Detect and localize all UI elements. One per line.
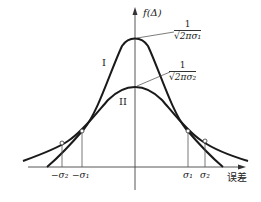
peak-i-label: 1 √2πσ₁ — [174, 20, 201, 41]
tick-sigma2: σ₂ — [200, 171, 210, 180]
inflection-marker — [203, 139, 207, 143]
curve-ii-label: II — [119, 96, 127, 107]
tick-neg-sigma1: −σ₁ — [72, 171, 89, 180]
inflection-marker — [60, 141, 64, 145]
error-distribution-diagram — [0, 0, 261, 202]
inflection-marker — [186, 129, 190, 133]
curve-i-label: I — [102, 57, 106, 68]
tick-neg-sigma2: −σ₂ — [51, 171, 68, 180]
curve-ii — [23, 87, 248, 161]
peak-i-leader — [137, 32, 174, 38]
y-axis-arrow-icon — [133, 7, 138, 15]
x-axis-arrow-icon — [238, 165, 246, 170]
tick-sigma1: σ₁ — [183, 171, 193, 180]
peak-ii-label: 1 √2πσ₂ — [169, 61, 196, 82]
peak-i-numerator: 1 — [185, 20, 191, 29]
y-axis-label: f(Δ) — [143, 8, 162, 18]
peak-ii-numerator: 1 — [180, 61, 186, 70]
inflection-marker — [80, 129, 84, 133]
x-axis-label: 误差 — [227, 173, 247, 183]
peak-i-denominator: √2πσ₁ — [174, 32, 201, 41]
peak-ii-leader — [137, 72, 170, 86]
peak-ii-denominator: √2πσ₂ — [169, 73, 196, 82]
